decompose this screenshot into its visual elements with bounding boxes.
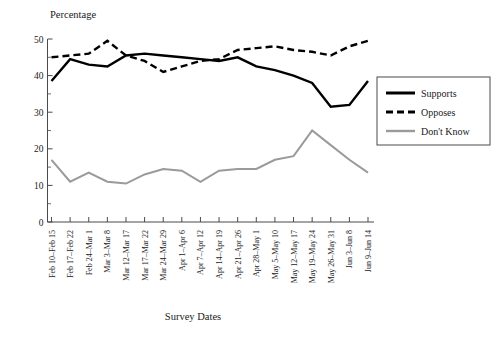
- x-tick-label: May 26–May 31: [327, 230, 336, 283]
- x-tick-label: Apr 1–Apr 6: [178, 230, 187, 271]
- x-tick-label: Feb 24–Mar 1: [85, 230, 94, 275]
- y-tick-label: 20: [34, 144, 44, 154]
- x-tick-label: May 12–May 17: [290, 230, 299, 283]
- x-tick-label: Mar 24–Mar 29: [159, 230, 168, 281]
- x-tick-label: May 5–May 10: [271, 230, 280, 279]
- y-tick-label: 50: [34, 35, 44, 45]
- x-tick-label: Apr 14–Apr 19: [215, 230, 224, 279]
- y-tick-label: 0: [39, 218, 44, 228]
- legend-label: Opposes: [421, 107, 456, 118]
- series-line-opposes: [52, 41, 369, 72]
- x-tick-label: Mar 12–Mar 17: [122, 230, 131, 281]
- x-tick-label: May 19–May 24: [308, 230, 317, 283]
- chart-figure: Percentage 01020304050 Feb 10–Feb 15Feb …: [0, 0, 493, 342]
- x-tick-label: Jun 3–Jun 8: [345, 230, 354, 268]
- x-axis-title: Survey Dates: [165, 311, 221, 322]
- x-tick-label: Apr 28–May 1: [252, 230, 261, 277]
- x-tick-label: Mar 17–Mar 22: [141, 230, 150, 281]
- x-tick-label: Mar 3–Mar 8: [103, 230, 112, 273]
- series-line-don-t-know: [52, 131, 369, 184]
- x-tick-label: Feb 10–Feb 15: [48, 230, 57, 278]
- x-tick-label: Jun 9–Jun 14: [364, 230, 373, 272]
- y-axis-title: Percentage: [50, 9, 96, 20]
- x-tick-label: Apr 7–Apr 12: [196, 230, 205, 275]
- series-line-supports: [52, 54, 369, 107]
- y-tick-label: 40: [34, 71, 44, 81]
- y-tick-label: 30: [34, 108, 44, 118]
- line-chart-canvas: Percentage 01020304050 Feb 10–Feb 15Feb …: [0, 0, 493, 342]
- y-tick-label: 10: [34, 181, 44, 191]
- x-tick-label: Apr 21–Apr 26: [234, 230, 243, 279]
- x-tick-label: Feb 17–Feb 22: [66, 230, 75, 278]
- legend-label: Don't Know: [421, 126, 471, 137]
- legend-label: Supports: [421, 88, 457, 99]
